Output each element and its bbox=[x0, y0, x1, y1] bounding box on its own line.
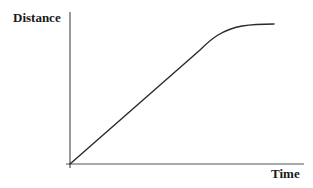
distance-time-graph: Distance Time bbox=[0, 0, 313, 188]
distance-curve bbox=[70, 24, 274, 164]
y-axis-label: Distance bbox=[13, 11, 61, 24]
plot-area bbox=[0, 0, 313, 188]
x-axis-label: Time bbox=[271, 167, 300, 180]
